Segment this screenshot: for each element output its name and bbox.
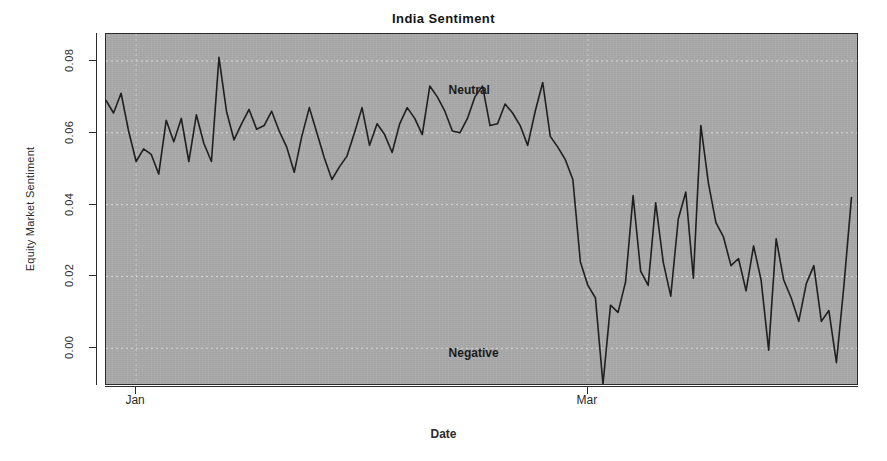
y-tick-mark-1 [89, 275, 96, 276]
y-tick-mark-0 [89, 347, 96, 348]
y-tick-label-1: 0.02 [63, 258, 75, 292]
annotation-negative: Negative [449, 346, 499, 360]
y-axis-title: Equity Market Sentiment [24, 147, 36, 271]
plot-panel: Neutral Negative [105, 33, 858, 385]
y-tick-mark-4 [89, 60, 96, 61]
annotation-neutral: Neutral [449, 83, 490, 97]
y-tick-label-0: 0.00 [63, 330, 75, 364]
y-tick-label-3: 0.06 [63, 115, 75, 149]
x-tick-label-1: Mar [577, 393, 598, 407]
x-axis-line [105, 386, 858, 387]
y-axis-line [96, 33, 97, 385]
chart-root: India Sentiment Neutral Negative 0.000.0… [0, 0, 887, 461]
chart-title: India Sentiment [0, 11, 887, 26]
y-tick-label-4: 0.08 [63, 43, 75, 77]
y-tick-label-2: 0.04 [63, 187, 75, 221]
x-axis-title: Date [0, 427, 887, 441]
series-line-0 [106, 57, 851, 384]
y-tick-mark-3 [89, 132, 96, 133]
x-tick-label-0: Jan [125, 393, 144, 407]
y-tick-mark-2 [89, 204, 96, 205]
